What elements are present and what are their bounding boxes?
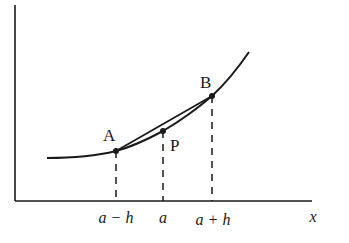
tick-label-a: a	[159, 209, 167, 226]
tick-label-a-minus-h: a − h	[99, 209, 134, 226]
diagram-canvas: A P B a − h a a + h x	[0, 0, 349, 243]
point-label-b: B	[200, 73, 211, 92]
point-label-p: P	[170, 136, 179, 155]
point-a	[113, 148, 119, 154]
function-curve	[47, 52, 249, 158]
secant-line-ab	[116, 96, 212, 151]
point-label-a: A	[103, 126, 116, 145]
x-axis-label: x	[308, 208, 316, 225]
point-b	[209, 93, 215, 99]
point-p	[160, 128, 166, 134]
tick-label-a-plus-h: a + h	[196, 211, 231, 228]
